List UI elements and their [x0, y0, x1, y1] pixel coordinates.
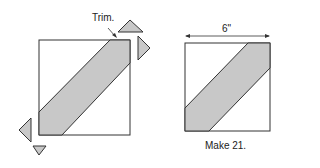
trim-label: Trim. [92, 12, 114, 23]
right-block [185, 43, 270, 131]
dimension-label: 6" [222, 23, 231, 34]
dimension-arrow [185, 34, 270, 38]
make-label: Make 21. [205, 140, 246, 151]
trim-arrow [108, 28, 117, 38]
left-block [39, 40, 130, 135]
